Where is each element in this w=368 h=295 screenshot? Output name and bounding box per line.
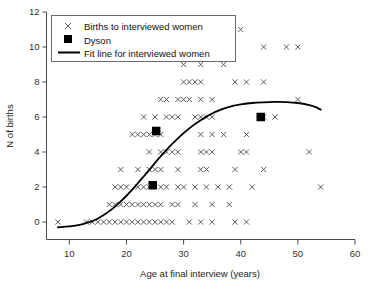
data-point-x (147, 219, 152, 224)
data-point-x (210, 149, 215, 154)
data-point-x (170, 114, 175, 119)
y-tick-label-6: 6 (34, 111, 39, 122)
data-point-x (164, 184, 169, 189)
data-point-x (118, 184, 123, 189)
data-point-x (181, 97, 186, 102)
data-point-x (238, 149, 243, 154)
data-point-x (198, 219, 203, 224)
data-point-x (238, 27, 243, 32)
data-point-x (152, 114, 157, 119)
data-point-x (232, 167, 237, 172)
legend-label-births: Births to interviewed women (84, 21, 203, 32)
data-point-x (204, 184, 209, 189)
data-point-x (158, 184, 163, 189)
data-point-x (198, 79, 203, 84)
y-tick-label-2: 2 (34, 181, 39, 192)
data-point-x (187, 79, 192, 84)
data-point-x (221, 132, 226, 137)
y-axis-ticks: 024681012 (29, 6, 47, 227)
x-axis-title: Age at final interview (years) (140, 268, 260, 279)
data-point-x (192, 114, 197, 119)
data-point-x (210, 202, 215, 207)
data-point-x (152, 219, 157, 224)
fit-line-path (58, 102, 321, 227)
data-point-x (244, 79, 249, 84)
data-point-x (307, 149, 312, 154)
data-point-x (147, 149, 152, 154)
data-point-x (232, 219, 237, 224)
data-point-x (295, 44, 300, 49)
legend-entry-births: Births to interviewed women (65, 21, 203, 32)
chart-figure: 024681012 102030405060 Age at final inte… (0, 0, 368, 295)
data-point-x (141, 132, 146, 137)
fit-line-curve (58, 102, 321, 227)
data-point-dyson (149, 181, 158, 190)
data-point-x (158, 97, 163, 102)
x-tick-label-10: 10 (64, 248, 75, 259)
data-point-x (112, 219, 117, 224)
y-axis-title: N of births (4, 104, 15, 148)
data-point-x (175, 97, 180, 102)
data-point-x (135, 167, 140, 172)
data-point-x (250, 184, 255, 189)
data-point-x (210, 219, 215, 224)
data-point-x (164, 219, 169, 224)
data-point-x (170, 219, 175, 224)
data-point-x (192, 184, 197, 189)
data-point-x (175, 202, 180, 207)
data-point-x (210, 132, 215, 137)
data-point-dyson (256, 113, 265, 122)
scatter-plot: 024681012 102030405060 Age at final inte… (0, 0, 368, 295)
data-point-x (192, 202, 197, 207)
data-point-x (204, 167, 209, 172)
data-point-x (101, 219, 106, 224)
y-tick-label-0: 0 (34, 216, 39, 227)
data-point-x (130, 132, 135, 137)
y-tick-label-10: 10 (29, 41, 40, 52)
data-point-x (227, 184, 232, 189)
data-point-x (198, 97, 203, 102)
data-point-x (175, 167, 180, 172)
data-point-x (175, 149, 180, 154)
y-tick-label-4: 4 (34, 146, 39, 157)
data-point-x (147, 202, 152, 207)
data-point-x (152, 202, 157, 207)
data-point-x (164, 114, 169, 119)
data-point-x (232, 79, 237, 84)
data-point-x (124, 184, 129, 189)
data-point-x (187, 219, 192, 224)
data-point-x (272, 114, 277, 119)
data-point-x (135, 202, 140, 207)
data-point-dyson (152, 127, 161, 136)
legend-label-fitline: Fit line for interviewed women (84, 48, 210, 59)
data-point-x (181, 184, 186, 189)
data-point-x (227, 202, 232, 207)
data-point-x (112, 184, 117, 189)
x-axis-ticks: 102030405060 (64, 240, 360, 259)
data-point-x (107, 219, 112, 224)
data-point-x (152, 167, 157, 172)
data-point-x (158, 219, 163, 224)
data-point-x (181, 62, 186, 67)
data-point-x (175, 184, 180, 189)
data-point-x (141, 202, 146, 207)
data-point-x (124, 219, 129, 224)
data-point-x (135, 219, 140, 224)
data-point-x (210, 97, 215, 102)
data-point-x (284, 44, 289, 49)
chart-legend: Births to interviewed women Dyson Fit li… (52, 16, 236, 62)
data-point-x (147, 132, 152, 137)
data-point-x (198, 62, 203, 67)
data-point-x (175, 114, 180, 119)
data-point-x (141, 114, 146, 119)
x-tick-label-30: 30 (178, 248, 189, 259)
data-point-x (244, 132, 249, 137)
data-point-x (164, 97, 169, 102)
data-point-x (221, 62, 226, 67)
data-point-x (244, 149, 249, 154)
data-point-x (118, 219, 123, 224)
x-tick-label-40: 40 (235, 248, 246, 259)
data-point-x (215, 184, 220, 189)
y-tick-label-12: 12 (29, 6, 40, 17)
data-point-x (170, 202, 175, 207)
